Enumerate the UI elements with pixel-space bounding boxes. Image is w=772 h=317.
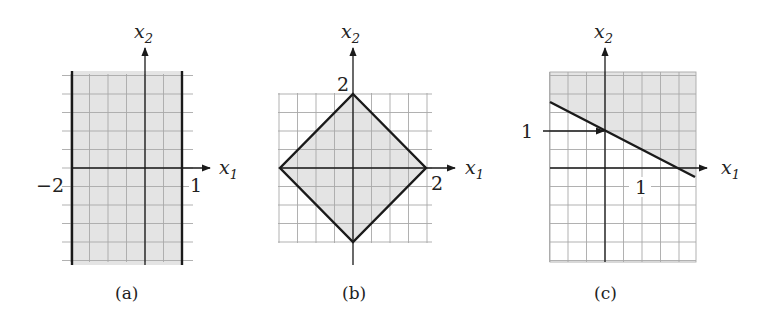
x1-label-b: x1 <box>465 156 484 182</box>
x1-label-c: x1 <box>721 156 740 182</box>
tick-label-2-x-b: 2 <box>431 172 443 194</box>
caption-b: (b) <box>342 283 366 303</box>
x2-label-c: x2 <box>594 20 613 46</box>
caption-a: (a) <box>115 283 138 303</box>
x2-label-a: x2 <box>134 20 153 46</box>
tick-label-1-x-c: 1 <box>635 176 647 198</box>
panel-b: x2 x1 2 2 (b) <box>278 20 484 303</box>
panel-c: x2 x1 1 1 (c) <box>521 20 740 303</box>
tick-label-1-y-c: 1 <box>521 120 533 142</box>
panel-a: x2 x1 −2 1 (a) <box>36 20 238 303</box>
region-c-shade <box>550 72 696 177</box>
tick-label-1-a: 1 <box>190 174 202 196</box>
figure: x2 x1 −2 1 (a) x2 x1 2 2 (b) x2 x1 1 1 (… <box>0 0 772 317</box>
x2-label-b: x2 <box>341 20 360 46</box>
caption-c: (c) <box>594 283 617 303</box>
x1-label-a: x1 <box>219 156 238 182</box>
tick-label-neg2-a: −2 <box>36 174 64 196</box>
tick-label-2-y-b: 2 <box>337 73 349 95</box>
